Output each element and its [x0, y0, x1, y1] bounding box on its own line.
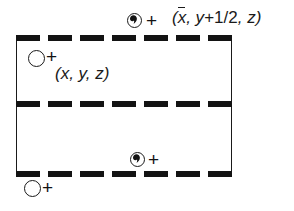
dash-segment: [208, 35, 232, 41]
symmetry-symbol-open-circle-icon: [24, 180, 41, 197]
glide-plane-top: [16, 35, 232, 41]
symmetry-symbol-circle-with-comma-icon: [130, 152, 145, 167]
dash-segment: [80, 35, 104, 41]
dash-segment: [144, 35, 168, 41]
dash-segment: [16, 171, 40, 177]
dash-segment: [16, 35, 40, 41]
height-plus-sign-lower-comma: +: [148, 150, 159, 169]
coordinate-label-general: (x, y, z): [55, 64, 109, 84]
dash-segment: [144, 171, 168, 177]
space-group-diagram: + (x, y+1/2, z) + (x, y, z) + +: [0, 0, 294, 211]
symmetry-symbol-circle-with-comma-icon: [127, 13, 142, 28]
height-plus-sign-lower-open: +: [42, 178, 53, 197]
dash-segment: [80, 101, 104, 107]
dash-segment: [112, 35, 136, 41]
dash-segment: [48, 101, 72, 107]
dash-segment: [144, 101, 168, 107]
coordinate-label-glide-image: (x, y+1/2, z): [172, 8, 261, 28]
dash-segment: [176, 101, 200, 107]
dash-segment: [208, 101, 232, 107]
dash-segment: [48, 35, 72, 41]
dash-segment: [80, 171, 104, 177]
dash-segment: [112, 171, 136, 177]
dash-segment: [176, 35, 200, 41]
dash-segment: [176, 171, 200, 177]
dash-segment: [16, 101, 40, 107]
glide-plane-middle: [16, 101, 232, 107]
dash-segment: [208, 171, 232, 177]
height-plus-sign-upper-comma: +: [146, 11, 157, 30]
dash-segment: [112, 101, 136, 107]
symmetry-symbol-open-circle-icon: [28, 50, 45, 67]
